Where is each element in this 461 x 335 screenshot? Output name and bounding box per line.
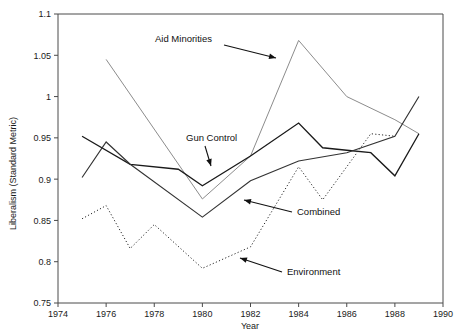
y-tick-label: 0.8 — [38, 257, 51, 267]
y-tick-label: 1 — [46, 92, 51, 102]
y-tick-label: 0.85 — [33, 216, 51, 226]
annotation-label-aid-minorities: Aid Minorities — [155, 33, 212, 44]
annotation-label-combined: Combined — [297, 206, 340, 217]
x-axis-title: Year — [241, 321, 259, 331]
x-tick-label: 1984 — [289, 309, 309, 319]
y-axis-title: Liberalism (Standard Metric) — [8, 117, 18, 230]
line-chart: 0.750.80.850.90.9511.051.1 1974197619781… — [0, 0, 461, 335]
x-tick-label: 1976 — [96, 309, 116, 319]
x-tick-label: 1988 — [385, 309, 405, 319]
y-tick-label: 0.9 — [38, 175, 51, 185]
annotation-label-gun-control: Gun Control — [186, 132, 237, 143]
y-tick-label: 1.05 — [33, 51, 51, 61]
x-tick-label: 1982 — [240, 309, 260, 319]
chart-background — [0, 0, 461, 335]
y-tick-label: 0.95 — [33, 133, 51, 143]
y-tick-label: 1.1 — [38, 9, 51, 19]
x-tick-label: 1986 — [337, 309, 357, 319]
chart-container: 0.750.80.850.90.9511.051.1 1974197619781… — [0, 0, 461, 335]
y-tick-label: 0.75 — [33, 298, 51, 308]
x-tick-label: 1990 — [433, 309, 453, 319]
annotation-label-environment: Environment — [287, 266, 341, 277]
x-tick-label: 1980 — [192, 309, 212, 319]
x-tick-label: 1974 — [48, 309, 68, 319]
x-tick-label: 1978 — [144, 309, 164, 319]
